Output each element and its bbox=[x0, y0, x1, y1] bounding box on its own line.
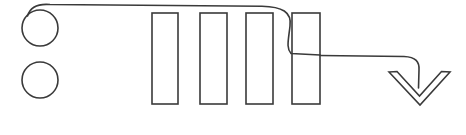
vertical-bar-4 bbox=[292, 13, 320, 104]
vertical-bar-1 bbox=[152, 13, 178, 104]
canvas-background bbox=[0, 0, 466, 135]
vertical-bar-2 bbox=[200, 13, 227, 104]
circle-bottom bbox=[22, 62, 58, 98]
diagram-canvas bbox=[0, 0, 466, 135]
diagram-illustration bbox=[0, 0, 466, 135]
vertical-bar-3 bbox=[246, 13, 273, 104]
